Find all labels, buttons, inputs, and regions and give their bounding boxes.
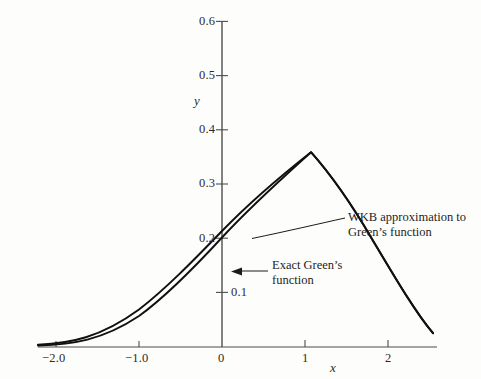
curve-exact-green-function [38, 152, 433, 345]
annotation-wkb-line1: WKB approximation to [348, 210, 466, 224]
annotation-wkb-line2: Green’s function [348, 225, 466, 240]
x-tick-label-1: 1 [302, 351, 308, 366]
y-tick-label-0-1: 0.1 [231, 285, 247, 300]
annotation-exact-line1: Exact Green’s [272, 258, 342, 272]
y-tick-label-0-6: 0.6 [199, 14, 215, 29]
y-tick-label-0-5: 0.5 [199, 68, 215, 83]
annotation-exact-line2: function [272, 273, 342, 288]
curve-wkb-approximation [38, 152, 433, 345]
annotation-exact-green-function: Exact Green’s function [272, 258, 342, 287]
x-tick-label-2: 2 [385, 351, 391, 366]
y-axis-title: y [194, 93, 200, 109]
x-tick-label-neg1: −1.0 [125, 351, 148, 366]
y-tick-label-0-3: 0.3 [199, 176, 215, 191]
wkb-leader-line [252, 218, 345, 239]
x-axis-title: x [330, 360, 336, 376]
x-tick-label-0: 0 [218, 351, 224, 366]
annotation-wkb-approximation: WKB approximation to Green’s function [348, 210, 466, 239]
y-tick-label-0-4: 0.4 [199, 122, 215, 137]
figure-container: 0.6 0.5 0.4 0.3 0.2 0.1 −2.0 −1.0 0 1 2 … [0, 0, 481, 379]
plot-canvas [0, 0, 481, 379]
y-tick-label-0-2: 0.2 [199, 231, 215, 246]
exact-arrowhead-icon [231, 268, 242, 276]
x-tick-label-neg2: −2.0 [42, 351, 65, 366]
